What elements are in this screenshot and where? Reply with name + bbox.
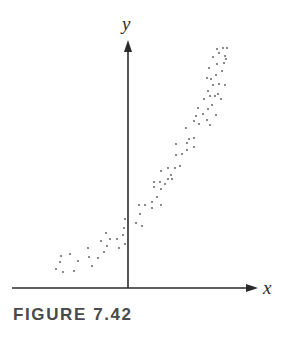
- data-point: [186, 142, 188, 144]
- data-point: [216, 48, 218, 50]
- y-axis-arrow-icon: [124, 40, 132, 52]
- data-point: [218, 83, 220, 85]
- data-point: [221, 70, 223, 72]
- data-point: [135, 222, 137, 224]
- data-point: [212, 56, 214, 58]
- data-point: [175, 143, 177, 145]
- data-point: [193, 120, 195, 122]
- x-axis-arrow-icon: [246, 284, 258, 292]
- data-point: [109, 238, 111, 240]
- data-point: [224, 84, 226, 86]
- data-point: [181, 153, 183, 155]
- data-point: [171, 178, 173, 180]
- data-point: [97, 257, 99, 259]
- points-layer: [55, 47, 228, 273]
- data-point: [175, 154, 177, 156]
- data-point: [212, 84, 214, 86]
- x-axis-label: x: [262, 277, 272, 298]
- scatter-chart: x y: [0, 0, 287, 300]
- data-point: [214, 95, 216, 97]
- data-point: [118, 247, 120, 249]
- data-point: [141, 225, 143, 227]
- data-point: [116, 238, 118, 240]
- data-point: [226, 47, 228, 49]
- data-point: [193, 137, 195, 139]
- data-point: [207, 108, 209, 110]
- data-point: [210, 78, 212, 80]
- data-point: [87, 247, 89, 249]
- data-point: [164, 183, 166, 185]
- data-point: [223, 62, 225, 64]
- data-point: [208, 67, 210, 69]
- data-point: [206, 119, 208, 121]
- data-point: [77, 260, 79, 262]
- data-point: [160, 204, 162, 206]
- data-point: [159, 181, 161, 183]
- data-point: [124, 218, 126, 220]
- data-point: [153, 186, 155, 188]
- data-point: [198, 123, 200, 125]
- data-point: [218, 52, 220, 54]
- data-point: [124, 243, 126, 245]
- data-point: [197, 107, 199, 109]
- data-point: [122, 234, 124, 236]
- data-point: [195, 115, 197, 117]
- data-point: [202, 113, 204, 115]
- data-point: [203, 98, 205, 100]
- data-point: [100, 240, 102, 242]
- data-point: [193, 146, 195, 148]
- data-point: [216, 63, 218, 65]
- data-point: [103, 251, 105, 253]
- data-point: [220, 98, 222, 100]
- data-point: [153, 181, 155, 183]
- data-point: [167, 178, 169, 180]
- data-point: [225, 58, 227, 60]
- data-point: [144, 204, 146, 206]
- data-point: [160, 170, 162, 172]
- data-point: [174, 167, 176, 169]
- data-point: [151, 207, 153, 209]
- data-point: [217, 93, 219, 95]
- data-point: [151, 201, 153, 203]
- data-point: [215, 114, 217, 116]
- data-point: [105, 232, 107, 234]
- data-point: [215, 74, 217, 76]
- data-point: [106, 245, 108, 247]
- data-point: [59, 261, 61, 263]
- data-point: [138, 204, 140, 206]
- data-point: [186, 149, 188, 151]
- data-point: [123, 227, 125, 229]
- data-point: [207, 90, 209, 92]
- data-point: [156, 196, 158, 198]
- data-point: [62, 271, 64, 273]
- data-point: [211, 104, 213, 106]
- data-point: [91, 265, 93, 267]
- data-point: [185, 127, 187, 129]
- data-point: [73, 270, 75, 272]
- data-point: [170, 174, 172, 176]
- data-point: [60, 255, 62, 257]
- data-point: [69, 253, 71, 255]
- data-point: [209, 124, 211, 126]
- data-point: [167, 167, 169, 169]
- data-point: [55, 268, 57, 270]
- data-point: [222, 47, 224, 49]
- data-point: [160, 188, 162, 190]
- data-point: [139, 213, 141, 215]
- data-point: [179, 165, 181, 167]
- y-axis-label: y: [120, 13, 131, 34]
- data-point: [224, 55, 226, 57]
- data-point: [188, 138, 190, 140]
- data-point: [209, 95, 211, 97]
- figure-caption: FIGURE 7.42: [13, 305, 133, 325]
- data-point: [88, 256, 90, 258]
- data-point: [206, 77, 208, 79]
